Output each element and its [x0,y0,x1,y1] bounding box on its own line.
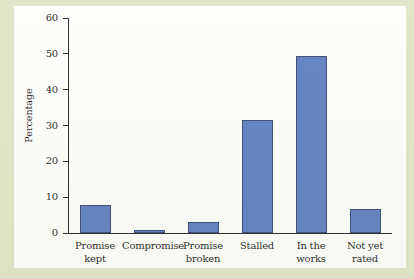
bar [134,230,165,233]
y-tick-mark [63,161,68,162]
y-tick-mark [63,53,68,54]
x-category-label: Not yet rated [338,240,392,265]
y-tick-label: 0 [18,228,58,238]
y-tick-mark [63,18,68,19]
y-tick-label: 20 [18,156,58,166]
bar [80,205,111,233]
bar [242,120,273,233]
y-tick-label: 50 [18,49,58,59]
x-axis-line [68,233,392,234]
bar [188,222,219,233]
y-tick-label: 60 [18,13,58,23]
y-tick-mark [63,197,68,198]
y-tick-label: 30 [18,121,58,131]
x-category-label: Promise kept [68,240,122,265]
y-tick-label: 40 [18,85,58,95]
x-category-label: In the works [284,240,338,265]
y-tick-mark [63,233,68,234]
y-tick-label: 10 [18,192,58,202]
bar [350,209,381,233]
y-tick-mark [63,125,68,126]
x-category-label: Stalled [230,240,284,253]
y-tick-mark [63,89,68,90]
x-category-label: Compromise [122,240,176,253]
bar [296,56,327,233]
plot-area: Percentage 0102030405060 Promise keptCom… [14,6,406,268]
x-category-label: Promise broken [176,240,230,265]
chart-figure: Percentage 0102030405060 Promise keptCom… [0,0,414,279]
chart-panel: Percentage 0102030405060 Promise keptCom… [14,6,406,268]
y-axis-line [68,18,69,234]
